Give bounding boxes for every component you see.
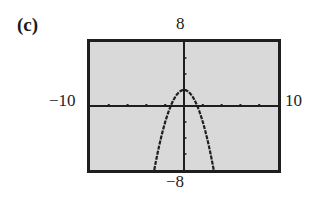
x-max-label: 10	[285, 91, 302, 111]
y-max-label: 8	[176, 14, 185, 34]
part-label: (c)	[17, 14, 38, 36]
graph-screen	[87, 39, 281, 173]
y-min-label: −8	[166, 172, 184, 192]
x-min-label: −10	[49, 91, 76, 111]
